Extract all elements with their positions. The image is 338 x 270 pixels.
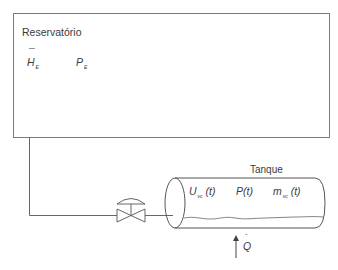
- pipe-vertical: [30, 138, 118, 216]
- valve-icon: [117, 199, 145, 223]
- tank-var-pressure: P(t): [236, 185, 253, 197]
- reservoir-var-pressure: PE: [76, 56, 87, 68]
- diagram-canvas: [0, 0, 338, 270]
- tank-var-internal-energy: Uvc (t): [189, 185, 215, 197]
- tank-title: Tanque: [250, 164, 283, 175]
- liquid-surface: [184, 217, 323, 219]
- heat-arrow-icon: [233, 235, 239, 258]
- reservoir-title: Reservatório: [22, 26, 82, 38]
- overbar: ¯: [29, 47, 35, 59]
- reservoir-var-enthalpy: ¯HE: [27, 56, 39, 68]
- dot: ˙: [245, 232, 249, 244]
- tank-var-mass: mvc (t): [273, 185, 301, 197]
- heat-rate-label: ˙Q: [243, 240, 251, 252]
